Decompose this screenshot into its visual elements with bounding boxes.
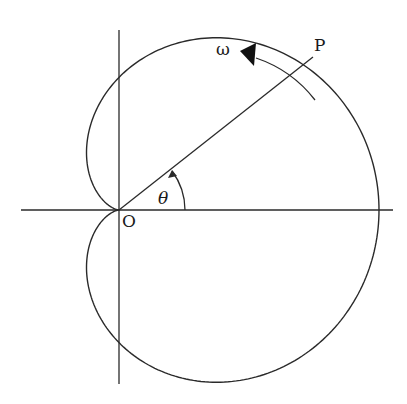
origin-label: O <box>122 213 136 230</box>
cardioid-diagram: O P θ ω <box>0 0 407 404</box>
angle-label: θ <box>158 190 168 207</box>
omega-arrowhead-icon <box>240 43 256 66</box>
theta-arc <box>172 171 185 210</box>
point-label: P <box>314 37 325 54</box>
diagram-canvas <box>0 0 407 404</box>
angular-velocity-label: ω <box>216 41 230 58</box>
radius-line-op <box>119 57 313 210</box>
